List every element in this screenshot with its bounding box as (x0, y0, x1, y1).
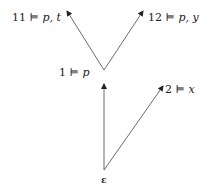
satisfies-symbol: ⊨ (166, 11, 175, 24)
root-node-label: ε (101, 174, 106, 186)
node-1-label: 1 ⊨ p (59, 67, 90, 79)
world-id: 11 (12, 11, 26, 24)
node-12-label: 12 ⊨ p, y (148, 12, 199, 24)
world-id: 1 (59, 66, 66, 79)
propositions: p, t (42, 11, 60, 24)
satisfies-symbol: ⊨ (30, 11, 39, 24)
edge-1-to-12 (104, 11, 143, 70)
edge-root-to-2 (104, 86, 163, 170)
node-11-label: 11 ⊨ p, t (12, 12, 61, 24)
tree-diagram (0, 0, 206, 192)
propositions: p, y (178, 11, 198, 24)
node-2-label: 2 ⊨ x (165, 84, 195, 96)
edge-1-to-11 (67, 11, 104, 70)
satisfies-symbol: ⊨ (176, 83, 185, 96)
satisfies-symbol: ⊨ (70, 66, 79, 79)
world-id: 2 (165, 83, 172, 96)
world-id: 12 (148, 11, 162, 24)
propositions: p (82, 66, 89, 79)
propositions: x (188, 83, 194, 96)
